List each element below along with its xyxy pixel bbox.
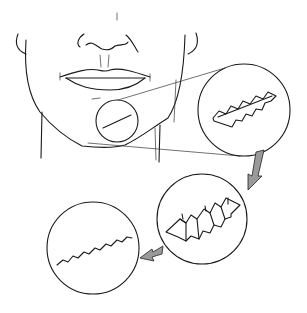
nose-right-ala xyxy=(126,35,138,52)
magnified-excision-circle xyxy=(198,64,290,156)
neck-right xyxy=(159,125,160,162)
nose-base xyxy=(86,42,128,50)
final-result-circle xyxy=(47,202,139,294)
arrow-left-icon xyxy=(140,246,163,261)
flaps-closure-circle xyxy=(157,174,247,264)
neck-left xyxy=(41,112,42,158)
nose-left-ala xyxy=(78,34,84,47)
left-ear xyxy=(17,34,26,54)
upper-lip xyxy=(60,69,150,77)
w-plasty-illustration xyxy=(0,0,307,313)
chin-scar-circle xyxy=(96,100,138,142)
diagram-canvas xyxy=(0,0,307,313)
lower-lip xyxy=(66,78,145,90)
right-ear xyxy=(188,33,197,54)
